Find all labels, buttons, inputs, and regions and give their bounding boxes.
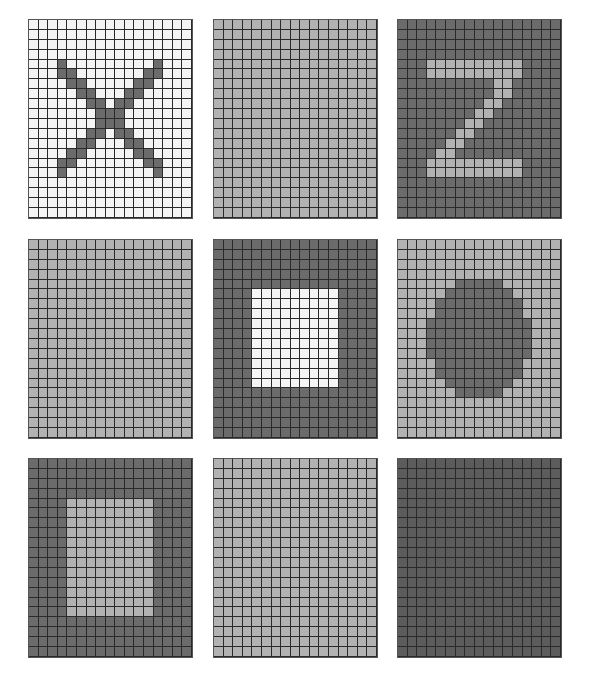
- grid-cell: [494, 30, 504, 40]
- grid-cell: [551, 418, 561, 428]
- grid-cell: [417, 309, 427, 319]
- grid-cell: [154, 299, 164, 309]
- grid-cell: [503, 198, 513, 208]
- grid-cell: [272, 109, 282, 119]
- grid-cell: [446, 359, 456, 369]
- grid-cell: [58, 568, 68, 578]
- grid-cell: [29, 499, 39, 509]
- grid-cell: [96, 139, 106, 149]
- grid-cell: [262, 240, 272, 250]
- grid-cell: [523, 60, 533, 70]
- grid-cell: [542, 69, 552, 79]
- grid-cell: [513, 508, 523, 518]
- grid-cell: [115, 369, 125, 379]
- grid-cell: [427, 99, 437, 109]
- grid-cell: [67, 428, 77, 438]
- grid-cell: [300, 240, 310, 250]
- grid-cell: [58, 240, 68, 250]
- grid-cell: [291, 208, 301, 218]
- grid-cell: [182, 359, 192, 369]
- grid-cell: [58, 627, 68, 637]
- grid-cell: [513, 459, 523, 469]
- grid-cell: [106, 50, 116, 60]
- grid-cell: [272, 159, 282, 169]
- grid-cell: [523, 459, 533, 469]
- grid-cell: [233, 69, 243, 79]
- grid-cell: [39, 79, 49, 89]
- grid-cell: [446, 588, 456, 598]
- grid-cell: [58, 349, 68, 359]
- grid-cell: [484, 188, 494, 198]
- grid-cell: [310, 30, 320, 40]
- grid-cell: [398, 50, 408, 60]
- grid-cell: [163, 319, 173, 329]
- grid-cell: [446, 99, 456, 109]
- grid-cell: [252, 289, 262, 299]
- grid-cell: [182, 270, 192, 280]
- grid-cell: [542, 139, 552, 149]
- grid-cell: [513, 538, 523, 548]
- grid-cell: [87, 119, 97, 129]
- grid-cell: [532, 489, 542, 499]
- grid-cell: [291, 398, 301, 408]
- grid-cell: [115, 627, 125, 637]
- grid-cell: [532, 469, 542, 479]
- grid-cell: [252, 428, 262, 438]
- grid-cell: [319, 260, 329, 270]
- grid-cell: [77, 617, 87, 627]
- grid-cell: [427, 489, 437, 499]
- grid-cell: [551, 479, 561, 489]
- grid-cell: [96, 208, 106, 218]
- grid-cell: [367, 408, 377, 418]
- grid-cell: [456, 208, 466, 218]
- grid-cell: [233, 40, 243, 50]
- grid-cell: [87, 270, 97, 280]
- grid-cell: [436, 558, 446, 568]
- grid-cell: [281, 627, 291, 637]
- grid-cell: [427, 647, 437, 657]
- grid-cell: [144, 607, 154, 617]
- grid-cell: [163, 119, 173, 129]
- grid-cell: [300, 280, 310, 290]
- grid-cell: [484, 339, 494, 349]
- grid-cell: [513, 69, 523, 79]
- grid-cell: [134, 588, 144, 598]
- grid-cell: [182, 588, 192, 598]
- grid-cell: [106, 489, 116, 499]
- grid-cell: [233, 260, 243, 270]
- grid-cell: [252, 647, 262, 657]
- grid-cell: [144, 627, 154, 637]
- grid-cell: [398, 627, 408, 637]
- grid-cell: [291, 408, 301, 418]
- grid-cell: [427, 339, 437, 349]
- grid-cell: [48, 398, 58, 408]
- grid-cell: [398, 168, 408, 178]
- grid-cell: [513, 598, 523, 608]
- grid-cell: [300, 129, 310, 139]
- grid-cell: [513, 558, 523, 568]
- grid-cell: [224, 208, 234, 218]
- grid-cell: [262, 627, 272, 637]
- grid-cell: [77, 647, 87, 657]
- grid-cell: [551, 159, 561, 169]
- grid-cell: [339, 99, 349, 109]
- grid-cell: [77, 359, 87, 369]
- grid-cell: [58, 339, 68, 349]
- grid-cell: [456, 168, 466, 178]
- grid-cell: [106, 20, 116, 30]
- grid-cell: [144, 270, 154, 280]
- grid-cell: [319, 159, 329, 169]
- grid-cell: [281, 149, 291, 159]
- grid-cell: [300, 607, 310, 617]
- grid-cell: [48, 30, 58, 40]
- grid-cell: [348, 40, 358, 50]
- grid-cell: [134, 208, 144, 218]
- grid-cell: [300, 79, 310, 89]
- grid-cell: [125, 280, 135, 290]
- grid-cell: [427, 627, 437, 637]
- grid-cell: [358, 270, 368, 280]
- grid-cell: [262, 459, 272, 469]
- grid-cell: [214, 30, 224, 40]
- grid-cell: [39, 40, 49, 50]
- grid-cell: [348, 289, 358, 299]
